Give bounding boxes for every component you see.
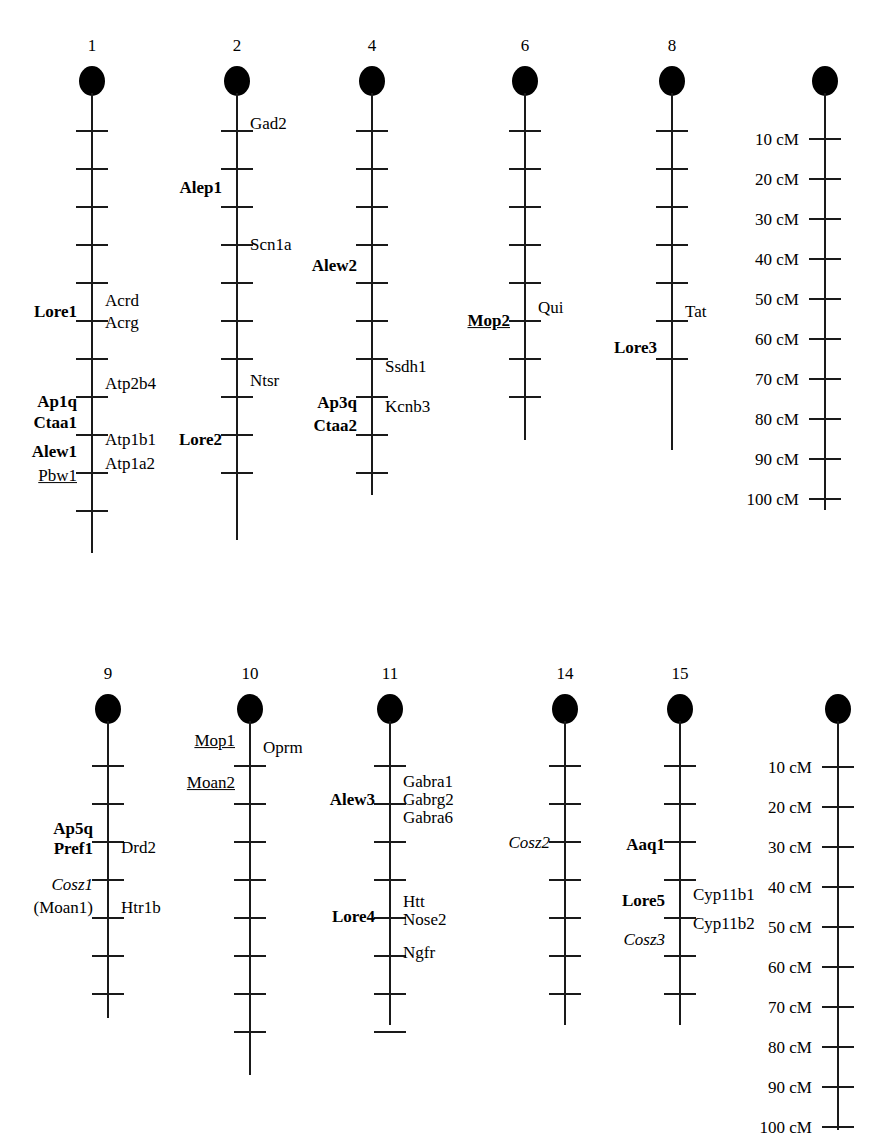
centromere-marker	[812, 66, 838, 96]
position-tick	[92, 841, 124, 843]
marker-label: Kcnb3	[385, 398, 430, 416]
scale-label: 100 cM	[760, 1119, 812, 1136]
position-tick	[76, 282, 108, 284]
chromosome-axis	[524, 93, 526, 440]
position-tick	[76, 244, 108, 246]
position-tick	[234, 993, 266, 995]
marker-label: Moan2	[187, 774, 235, 792]
centromere-marker	[667, 694, 693, 724]
position-tick	[656, 244, 688, 246]
position-tick	[509, 130, 541, 132]
position-tick	[809, 498, 841, 500]
position-tick	[656, 168, 688, 170]
marker-label: Lore4	[332, 908, 375, 926]
scale-label: 30 cM	[768, 839, 812, 856]
position-tick	[822, 886, 854, 888]
position-tick	[809, 258, 841, 260]
position-tick	[234, 841, 266, 843]
position-tick	[221, 244, 253, 246]
position-tick	[76, 472, 108, 474]
marker-label: Alew3	[330, 791, 375, 809]
centromere-marker	[237, 694, 263, 724]
position-tick	[221, 396, 253, 398]
position-tick	[221, 168, 253, 170]
position-tick	[221, 472, 253, 474]
scale-label: 90 cM	[768, 1079, 812, 1096]
position-tick	[356, 282, 388, 284]
position-tick	[664, 841, 696, 843]
marker-label: Gabra1	[403, 773, 454, 791]
position-tick	[509, 396, 541, 398]
marker-label: Cosz2	[508, 834, 550, 852]
position-tick	[76, 206, 108, 208]
position-tick	[664, 993, 696, 995]
scale-label: 30 cM	[755, 211, 799, 228]
position-tick	[356, 396, 388, 398]
position-tick	[822, 966, 854, 968]
marker-label: Atp2b4	[105, 375, 156, 393]
centromere-marker	[359, 66, 385, 96]
marker-label: Oprm	[263, 739, 303, 757]
chromosome-number: 10	[242, 665, 259, 682]
position-tick	[76, 320, 108, 322]
scale-label: 70 cM	[755, 371, 799, 388]
position-tick	[549, 803, 581, 805]
scale-label: 50 cM	[755, 291, 799, 308]
position-tick	[822, 1086, 854, 1088]
marker-label: Ctaa1	[34, 414, 77, 432]
position-tick	[76, 434, 108, 436]
position-tick	[822, 1126, 854, 1128]
chromosome-number: 14	[557, 665, 574, 682]
marker-label: Atp1a2	[105, 455, 155, 473]
marker-label: Cosz3	[623, 931, 665, 949]
position-tick	[92, 993, 124, 995]
marker-label: Pref1	[54, 840, 93, 858]
position-tick	[809, 178, 841, 180]
marker-label: Lore2	[179, 431, 222, 449]
position-tick	[664, 917, 696, 919]
position-tick	[549, 917, 581, 919]
marker-label: Acrg	[105, 314, 139, 332]
marker-label: Alew2	[312, 257, 357, 275]
marker-label: Nose2	[403, 911, 446, 929]
marker-label: Tat	[685, 303, 706, 321]
marker-label: Atp1b1	[105, 431, 156, 449]
position-tick	[822, 1006, 854, 1008]
scale-label: 100 cM	[747, 491, 799, 508]
marker-label: Ntsr	[250, 372, 279, 390]
marker-label: Lore5	[622, 892, 665, 910]
chromosome-number: 11	[382, 665, 398, 682]
position-tick	[356, 320, 388, 322]
chromosome-axis	[824, 93, 826, 510]
position-tick	[356, 130, 388, 132]
position-tick	[356, 168, 388, 170]
chromosome-number: 4	[368, 37, 377, 54]
position-tick	[656, 320, 688, 322]
marker-label: Gad2	[250, 115, 287, 133]
position-tick	[234, 955, 266, 957]
position-tick	[664, 955, 696, 957]
marker-label: Mop2	[468, 312, 511, 330]
position-tick	[664, 803, 696, 805]
position-tick	[234, 879, 266, 881]
marker-label: Pbw1	[38, 467, 77, 485]
scale-label: 40 cM	[768, 879, 812, 896]
centromere-marker	[95, 694, 121, 724]
position-tick	[234, 803, 266, 805]
scale-label: 50 cM	[768, 919, 812, 936]
centromere-marker	[79, 66, 105, 96]
marker-label: Aaq1	[626, 836, 665, 854]
position-tick	[809, 298, 841, 300]
chromosome-number: 15	[672, 665, 689, 682]
position-tick	[356, 472, 388, 474]
marker-label: Ssdh1	[385, 358, 427, 376]
position-tick	[76, 510, 108, 512]
scale-label: 10 cM	[768, 759, 812, 776]
linkage-map-figure: 1Lore1Ap1qCtaa1Alew1Pbw1AcrdAcrgAtp2b4At…	[0, 0, 892, 1140]
position-tick	[356, 434, 388, 436]
marker-label: (Moan1)	[34, 899, 93, 917]
position-tick	[509, 244, 541, 246]
position-tick	[374, 765, 406, 767]
scale-label: 90 cM	[755, 451, 799, 468]
marker-label: Cyp11b2	[693, 915, 755, 933]
